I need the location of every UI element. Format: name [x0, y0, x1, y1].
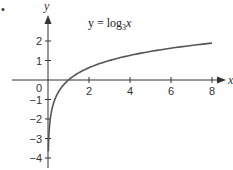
y-tick-label: −2 [29, 113, 42, 125]
x-axis-arrow-icon [217, 77, 226, 84]
log-chart: • xy 2468210−1−2−3−4 y = log3x [0, 0, 233, 170]
y-tick-label: −1 [29, 94, 42, 106]
x-tick-label: 8 [209, 85, 215, 97]
x-axis-label: x [227, 73, 233, 87]
y-tick-label: 2 [36, 35, 42, 47]
y-axis-label: y [43, 0, 50, 13]
equation-label: y = log3x [88, 16, 132, 32]
x-tick-label: 2 [86, 85, 92, 97]
y-tick-label: −4 [29, 152, 42, 164]
y-tick-label: 1 [36, 55, 42, 67]
y-axis-arrow-icon [45, 15, 52, 24]
x-tick-label: 6 [168, 85, 174, 97]
ticks: 2468210−1−2−3−4 [29, 35, 215, 164]
log-curve [48, 43, 212, 151]
y-tick-label: 0 [36, 82, 42, 94]
x-tick-label: 4 [127, 85, 133, 97]
y-tick-label: −3 [29, 133, 42, 145]
list-bullet: • [1, 3, 5, 15]
